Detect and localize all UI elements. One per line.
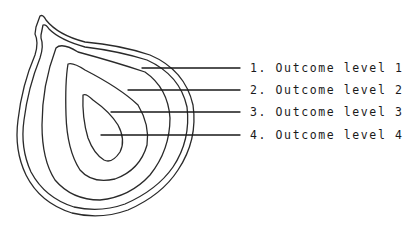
label-number: 4. (250, 128, 267, 142)
layer-ring-2 (66, 64, 148, 181)
label-outcome-level-4: 4. Outcome level 4 (250, 128, 403, 142)
layer-ring-3 (83, 95, 123, 161)
label-number: 1. (250, 61, 267, 75)
label-outcome-level-1: 1. Outcome level 1 (250, 61, 403, 75)
label-text: Outcome level 2 (276, 83, 403, 97)
label-text: Outcome level 4 (276, 128, 403, 142)
label-text: Outcome level 1 (276, 61, 403, 75)
label-number: 3. (250, 105, 267, 119)
label-outcome-level-2: 2. Outcome level 2 (250, 83, 403, 97)
label-outcome-level-3: 3. Outcome level 3 (250, 105, 403, 119)
onion-outer-skin-outline (17, 16, 194, 216)
onion-skin-inner-outline (23, 25, 188, 210)
layer-ring-1 (42, 46, 170, 200)
label-text: Outcome level 3 (276, 105, 403, 119)
label-number: 2. (250, 83, 267, 97)
